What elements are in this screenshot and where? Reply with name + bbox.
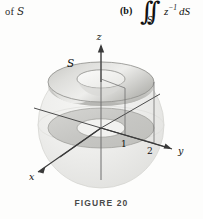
integrand-exponent: −1 <box>168 3 177 12</box>
surface-label-S: S <box>67 57 74 69</box>
integrand-expression: z−1dS <box>164 3 190 17</box>
header-text-row: of S (b) ∫ ∫ S z−1dS <box>0 0 203 32</box>
z-axis-label: z <box>95 31 102 42</box>
tick-label-2: 2 <box>147 146 153 156</box>
integral-subscript: S <box>147 15 153 25</box>
part-label-b: (b) <box>120 5 132 16</box>
figure-page: of S (b) ∫ ∫ S z−1dS <box>0 0 203 219</box>
double-integral-expression: ∫ ∫ S z−1dS <box>140 0 190 28</box>
continuation-word: of <box>5 6 14 17</box>
integral-measure: dS <box>179 5 190 17</box>
double-integral-sign: ∫ ∫ S <box>140 0 162 28</box>
continuation-text: of S <box>5 5 24 17</box>
surface-symbol: S <box>17 5 24 17</box>
figure-caption: FIGURE 20 <box>0 198 203 208</box>
tick-label-1: 1 <box>121 139 127 149</box>
y-axis-label: y <box>177 145 184 156</box>
figure-graphic: z y x S 1 2 <box>0 30 203 192</box>
x-axis-label: x <box>29 171 35 182</box>
